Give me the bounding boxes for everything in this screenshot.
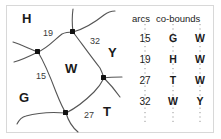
vertex-top: [70, 29, 75, 34]
arc-27: [66, 78, 104, 113]
region-label-w: W: [65, 62, 77, 75]
table-row-cobound-b: W: [192, 75, 208, 86]
table-row-cobound-a: H: [165, 54, 181, 65]
table-row-arc-value: 32: [136, 97, 154, 107]
region-label-h: H: [22, 12, 31, 25]
edge-label-15: 15: [36, 72, 46, 81]
table-row-cobound-a: W: [165, 96, 181, 107]
arc-tail-bottom-down: [66, 113, 78, 132]
table-row-arc-value: 27: [136, 76, 154, 86]
table-row-cobound-b: W: [192, 54, 208, 65]
table-row-arc-value: 19: [136, 55, 154, 65]
vertex-right: [101, 75, 106, 80]
table-header-co-bounds: co-bounds: [156, 14, 200, 24]
region-label-t: T: [103, 105, 111, 118]
arc-tail-bottom-left: [17, 112, 66, 124]
vertex-left: [35, 49, 40, 54]
arc-tail-right-downright: [104, 78, 120, 97]
edge-label-32: 32: [90, 37, 100, 46]
figure-screenshot: H W Y G T 19 32 15 27 arcs co-bounds 15 …: [0, 0, 221, 139]
arc-tail-right-right: [104, 77, 122, 78]
edge-label-19: 19: [43, 29, 53, 38]
table-header-arcs: arcs: [132, 14, 150, 24]
region-label-g: G: [19, 91, 29, 104]
arc-tail-top-right: [73, 11, 115, 32]
arc-15: [38, 52, 66, 113]
arc-tail-left-downleft: [14, 52, 38, 62]
table-row-cobound-b: Y: [192, 96, 208, 107]
table-row-cobound-b: W: [192, 33, 208, 44]
arc-tail-left-upleft: [13, 42, 38, 52]
table-row-arc-value: 15: [136, 34, 154, 44]
region-label-y: Y: [108, 46, 117, 59]
arc-tail-top-up: [72, 9, 73, 32]
table-row-cobound-a: G: [165, 33, 181, 44]
table-row-cobound-a: T: [165, 75, 181, 86]
map-diagram: H W Y G T 19 32 15 27: [0, 0, 128, 139]
vertex-bottom: [63, 110, 68, 115]
arcs-cobounds-table: arcs co-bounds 15 G W 19 H W 27 T W 32 W…: [128, 0, 221, 139]
edge-label-27: 27: [84, 111, 94, 120]
